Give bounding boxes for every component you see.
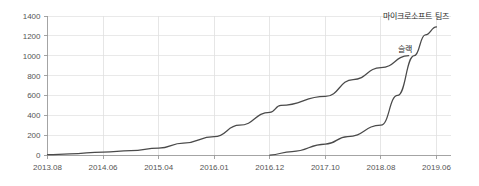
x-tick-label: 2016.12 bbox=[255, 163, 284, 172]
x-tick-label: 2017.10 bbox=[311, 163, 340, 172]
x-tick-label: 2018.08 bbox=[366, 163, 395, 172]
x-tick-label: 2015.04 bbox=[144, 163, 173, 172]
y-tick-label: 0 bbox=[36, 151, 41, 160]
y-tick-label: 1200 bbox=[23, 32, 41, 41]
line-chart: 0200400600800100012001400 2013.082014.06… bbox=[0, 0, 479, 186]
y-tick-label: 1400 bbox=[23, 12, 41, 21]
chart-background bbox=[0, 0, 479, 186]
y-tick-label: 200 bbox=[27, 131, 41, 140]
chart-container: 0200400600800100012001400 2013.082014.06… bbox=[0, 0, 479, 186]
x-tick-label: 2013.08 bbox=[33, 163, 62, 172]
x-tick-label: 2014.06 bbox=[89, 163, 118, 172]
y-tick-label: 600 bbox=[27, 91, 41, 100]
series-annotation-slack: 슬랙 bbox=[398, 44, 412, 54]
x-tick-label: 2016.01 bbox=[200, 163, 229, 172]
series-annotation-teams: 마이크로소프트 팀즈 bbox=[383, 11, 449, 21]
y-tick-label: 1000 bbox=[23, 52, 41, 61]
x-tick-label: 2019.06 bbox=[422, 163, 451, 172]
y-tick-label: 800 bbox=[27, 72, 41, 81]
y-tick-label: 400 bbox=[27, 111, 41, 120]
